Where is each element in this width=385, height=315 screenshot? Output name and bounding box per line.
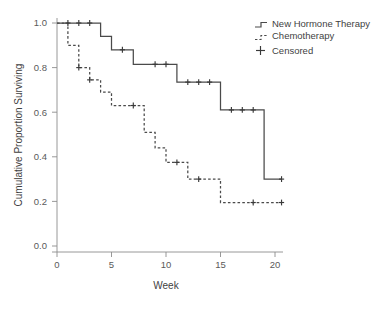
censored-marks-chemotherapy [76,65,284,206]
series-line-chemotherapy [57,23,282,203]
censored-marks-new-hormone-therapy [65,20,284,182]
y-axis-title: Cumulative Proportion Surviving [13,64,24,207]
legend-swatch-solid-step-icon [255,23,267,28]
legend-entry-new-hormone-therapy: New Hormone Therapy [255,18,370,29]
x-tick-label-3: 15 [215,259,226,270]
x-tick-label-2: 10 [161,259,172,270]
legend-entry-chemotherapy: Chemotherapy [255,30,335,41]
kaplan-meier-plot: 1.0 0.8 0.6 0.4 0.2 0.0 0 5 10 15 20 Wee… [0,0,385,315]
y-axis-ticks [52,23,57,246]
survival-chart-figure: 1.0 0.8 0.6 0.4 0.2 0.0 0 5 10 15 20 Wee… [0,0,385,315]
y-tick-label-5: 1.0 [34,17,47,28]
y-tick-label-3: 0.6 [34,107,47,118]
legend-label-1: Chemotherapy [272,30,335,41]
x-tick-label-4: 20 [270,259,281,270]
y-tick-label-4: 0.8 [34,62,47,73]
y-tick-label-2: 0.4 [34,151,47,162]
y-tick-label-1: 0.2 [34,196,47,207]
legend-label-2: Censored [272,45,313,56]
x-tick-label-1: 5 [109,259,114,270]
legend-swatch-dashed-step-icon [255,36,267,40]
y-tick-label-0: 0.0 [34,240,47,251]
legend-entry-censored: Censored [256,45,313,56]
chart-legend: New Hormone Therapy Chemotherapy Censore… [255,18,370,56]
x-axis-title: Week [153,280,179,291]
x-tick-label-0: 0 [54,259,59,270]
legend-label-0: New Hormone Therapy [272,18,370,29]
series-line-new-hormone-therapy [57,23,282,179]
x-axis-ticks [57,252,275,257]
